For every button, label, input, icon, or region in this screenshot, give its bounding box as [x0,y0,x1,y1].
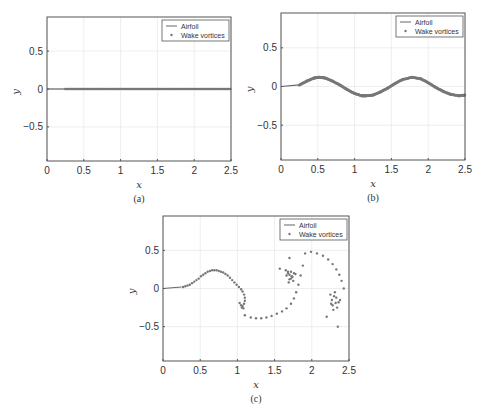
wake-vortex-point [294,273,296,275]
wake-vortex-point [243,303,245,305]
x-tick-label: 0 [44,165,50,176]
y-tick-label: −0.5 [139,321,159,332]
x-tick-label: 0.5 [77,165,91,176]
legend-airfoil-label: Airfoil [415,19,433,26]
wake-vortex-point [291,275,293,277]
legend-vortex-label: Wake vortices [415,28,459,35]
wake-vortex-point [334,291,336,293]
wake-vortex-point [337,301,339,303]
wake-vortex-point [336,306,338,308]
x-tick-label: 1 [352,164,358,175]
wake-vortex-point [242,307,244,309]
wake-vortex-point [338,274,340,276]
legend: AirfoilWake vortices [280,219,347,240]
panel-caption: (c) [250,393,261,405]
x-tick-label: 2 [309,365,315,376]
panel-b: 00.511.522.5−0.500.5xy(b)AirfoilWake vor… [240,0,481,205]
wake-vortex-point [213,269,215,271]
wake-vortex-point [293,297,295,299]
x-axis-label: x [370,178,376,189]
x-tick-label: 2.5 [224,165,238,176]
y-tick-label: 0.5 [263,42,277,53]
y-tick-label: 0.5 [29,46,43,57]
chart-a: 00.511.522.5−0.500.5xy(a)AirfoilWake vor… [0,0,240,205]
wake-vortex-point [304,252,306,254]
wake-vortex-point [270,315,272,317]
y-tick-label: 0 [271,81,277,92]
legend-vortex-swatch [404,30,406,32]
panel-caption: (b) [367,192,379,204]
wake-vortex-point [240,288,242,290]
x-tick-label: 2 [191,165,197,176]
wake-vortex-point [218,270,220,272]
x-axis-label: x [253,379,259,390]
legend-vortex-swatch [288,233,290,235]
wake-vortex-point [238,302,240,304]
wake-vortex-point [322,254,324,256]
wake-vortex-point [224,273,226,275]
wake-vortex-point [231,279,233,281]
y-tick-label: 0.5 [145,245,159,256]
wake-vortex-point [288,281,290,283]
y-tick-label: −0.5 [23,121,43,132]
wake-vortex-point [209,270,211,272]
panel-a: 00.511.522.5−0.500.5xy(a)AirfoilWake vor… [0,0,240,205]
wake-vortex-point [244,296,246,298]
wake-vortex-point [198,277,200,279]
wake-vortex-point [186,284,188,286]
wake-vortex-point [339,299,341,301]
x-tick-label: 2.5 [458,164,472,175]
y-tick-label: −0.5 [257,120,277,131]
wake-vortex-point [330,303,332,305]
x-tick-label: 0 [278,164,284,175]
wake-vortex-point [334,302,336,304]
x-tick-label: 1.5 [384,164,398,175]
x-tick-label: 1.5 [268,365,282,376]
wake-vortex-point [285,307,287,309]
wake-vortex-point [222,271,224,273]
legend-vortex-label: Wake vortices [299,231,343,238]
panel-c: 00.511.522.5−0.500.5xy(c)AirfoilWake vor… [120,205,380,412]
y-axis-label: y [244,86,255,93]
wake-vortex-point [299,274,301,276]
legend: AirfoilWake vortices [396,16,463,37]
wake-vortex-point [288,274,290,276]
wake-vortex-point [206,271,208,273]
x-tick-label: 1 [118,165,124,176]
wake-vortex-point [182,286,184,288]
x-tick-label: 2.5 [342,365,356,376]
wake-vortex-point [215,269,217,271]
x-tick-label: 1.5 [150,165,164,176]
wake-vortex-point [288,257,290,259]
x-axis-label: x [136,179,142,190]
panel-caption: (a) [133,193,144,205]
wake-vortex-point [295,291,297,293]
wake-vortex-point [189,283,191,285]
wake-vortex-point [316,252,318,254]
wake-vortex-point [250,316,252,318]
x-tick-label: 0.5 [193,365,207,376]
wake-vortex-point [329,293,331,295]
wake-vortex-point [204,272,206,274]
wake-vortex-point [255,317,257,319]
wake-vortex-point [325,316,327,318]
wake-vortex-point [292,280,294,282]
legend-airfoil-label: Airfoil [181,23,199,30]
wake-vortex-point [260,317,262,319]
wake-vortex-point [240,304,242,306]
wake-vortex-point [281,310,283,312]
x-tick-label: 0 [160,365,166,376]
wake-vortex-point [195,279,197,281]
wake-vortex-point [332,309,334,311]
wake-vortex-point [200,275,202,277]
chart-c: 00.511.522.5−0.500.5xy(c)AirfoilWake vor… [120,205,380,412]
wake-vortex-point [297,283,299,285]
wake-vortex-point [302,264,304,266]
wake-vortex-point [184,285,186,287]
wake-vortex-point [331,299,333,301]
wake-vortex-point [290,277,292,279]
wake-vortex-point [340,280,342,282]
wake-vortex-point [233,281,235,283]
wake-vortex-point [333,295,335,297]
wake-vortex-point [276,312,278,314]
